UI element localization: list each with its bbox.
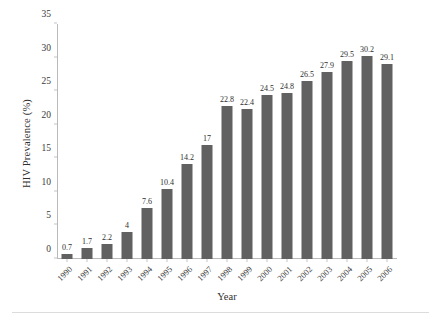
bar-value-label: 26.5 — [300, 70, 314, 79]
x-tick-label: 1996 — [175, 264, 194, 283]
x-tick-mark — [207, 259, 208, 262]
x-tick-mark — [127, 259, 128, 262]
x-tick-mark — [87, 259, 88, 262]
bar[interactable] — [182, 164, 193, 259]
x-tick-mark — [227, 259, 228, 262]
x-tick-mark — [187, 259, 188, 262]
bar[interactable] — [122, 232, 133, 259]
y-tick-label: 35 — [42, 9, 58, 19]
x-tick-label: 2004 — [335, 264, 354, 283]
x-tick-label: 1998 — [215, 264, 234, 283]
bar[interactable] — [382, 64, 393, 259]
x-tick-mark — [287, 259, 288, 262]
x-tick-label: 1994 — [135, 264, 154, 283]
x-tick-mark — [67, 259, 68, 262]
plot-area: 051015202530350.719901.719912.2199241993… — [57, 24, 397, 259]
bar[interactable] — [262, 95, 273, 260]
y-tick-label: 30 — [42, 43, 58, 53]
bar-value-label: 30.2 — [360, 45, 374, 54]
bar-group: 0.71990 — [57, 24, 77, 259]
x-tick-label: 1993 — [115, 264, 134, 283]
x-tick-mark — [307, 259, 308, 262]
x-tick-label: 1991 — [75, 264, 94, 283]
bar[interactable] — [82, 248, 93, 259]
bar-value-label: 22.8 — [220, 95, 234, 104]
bar-group: 24.52000 — [257, 24, 277, 259]
bar[interactable] — [242, 109, 253, 259]
bar-value-label: 14.2 — [180, 153, 194, 162]
bar-value-label: 24.5 — [260, 84, 274, 93]
x-tick-label: 1995 — [155, 264, 174, 283]
x-tick-label: 2001 — [275, 264, 294, 283]
x-tick-label: 2005 — [355, 264, 374, 283]
y-tick-label: 5 — [46, 210, 57, 220]
x-tick-label: 2006 — [375, 264, 394, 283]
bar-group: 10.41995 — [157, 24, 177, 259]
bar-value-label: 29.1 — [380, 53, 394, 62]
bar-group: 171997 — [197, 24, 217, 259]
bar-group: 22.81998 — [217, 24, 237, 259]
bar[interactable] — [202, 145, 213, 259]
x-tick-mark — [247, 259, 248, 262]
y-tick-label: 15 — [42, 143, 58, 153]
bar-value-label: 1.7 — [82, 237, 92, 246]
bar-value-label: 22.4 — [240, 98, 254, 107]
x-tick-label: 1990 — [55, 264, 74, 283]
x-tick-label: 2003 — [315, 264, 334, 283]
bar-group: 41993 — [117, 24, 137, 259]
bar-group: 26.52002 — [297, 24, 317, 259]
bar-value-label: 24.8 — [280, 82, 294, 91]
bar[interactable] — [302, 81, 313, 259]
x-tick-mark — [327, 259, 328, 262]
x-tick-label: 2000 — [255, 264, 274, 283]
bar-group: 1.71991 — [77, 24, 97, 259]
y-tick-label: 20 — [42, 110, 58, 120]
bar[interactable] — [322, 72, 333, 259]
bar-value-label: 4 — [125, 221, 129, 230]
y-tick-label: 0 — [46, 244, 57, 254]
bar-value-label: 10.4 — [160, 178, 174, 187]
x-tick-mark — [347, 259, 348, 262]
bar-group: 7.61994 — [137, 24, 157, 259]
x-tick-mark — [367, 259, 368, 262]
x-tick-label: 1999 — [235, 264, 254, 283]
bar[interactable] — [342, 61, 353, 259]
bar-group: 24.82001 — [277, 24, 297, 259]
hiv-prevalence-bar-chart: HIV Prevalence (%) 051015202530350.71990… — [0, 0, 441, 326]
bar-group: 22.41999 — [237, 24, 257, 259]
bar-value-label: 0.7 — [62, 243, 72, 252]
bar[interactable] — [162, 189, 173, 259]
bar-group: 14.21996 — [177, 24, 197, 259]
x-tick-label: 2002 — [295, 264, 314, 283]
x-tick-mark — [107, 259, 108, 262]
footer-divider — [12, 312, 429, 313]
bar-group: 27.92003 — [317, 24, 337, 259]
y-tick-label: 25 — [42, 76, 58, 86]
bar-value-label: 29.5 — [340, 50, 354, 59]
bar[interactable] — [222, 106, 233, 259]
bar-group: 29.52004 — [337, 24, 357, 259]
bar-group: 29.12006 — [377, 24, 397, 259]
bar-value-label: 2.2 — [102, 233, 112, 242]
bar[interactable] — [102, 244, 113, 259]
bar[interactable] — [362, 56, 373, 259]
bar-group: 30.22005 — [357, 24, 377, 259]
x-axis-title: Year — [57, 291, 397, 302]
bar-value-label: 7.6 — [142, 197, 152, 206]
bar-group: 2.21992 — [97, 24, 117, 259]
x-tick-mark — [267, 259, 268, 262]
y-tick-label: 10 — [42, 177, 58, 187]
bar-value-label: 27.9 — [320, 61, 334, 70]
y-axis-title: HIV Prevalence (%) — [21, 44, 32, 244]
x-tick-label: 1992 — [95, 264, 114, 283]
bar[interactable] — [282, 93, 293, 260]
x-tick-label: 1997 — [195, 264, 214, 283]
bar-value-label: 17 — [203, 134, 211, 143]
x-tick-mark — [167, 259, 168, 262]
bar[interactable] — [142, 208, 153, 259]
x-tick-mark — [387, 259, 388, 262]
x-tick-mark — [147, 259, 148, 262]
